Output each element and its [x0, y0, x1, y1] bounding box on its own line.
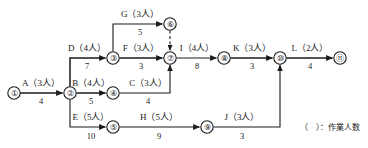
activity-label-B: B（4人） — [72, 78, 110, 88]
node-2-label: ② — [67, 89, 74, 98]
duration-label-H: 9 — [157, 131, 161, 141]
duration-label-F: 3 — [139, 61, 143, 71]
node-6: ⑥ — [164, 18, 176, 30]
node-9: ⑨ — [201, 121, 213, 133]
node-3-label: ③ — [110, 54, 117, 63]
duration-label-C: 4 — [146, 96, 151, 106]
activity-label-K: K（3人） — [233, 43, 271, 53]
legend-note: （ ）：作業人数 — [300, 122, 360, 132]
node-6-label: ⑥ — [167, 20, 174, 29]
activity-label-F: F（3人） — [123, 43, 160, 53]
activity-label-E: E（5人） — [73, 112, 110, 122]
activity-label-C: C（3人） — [129, 78, 167, 88]
activity-label-H: H（5人） — [140, 112, 178, 122]
activity-label-I: I（4人） — [180, 43, 215, 53]
activity-label-A: A（3人） — [22, 78, 60, 88]
node-4: ④ — [107, 87, 119, 99]
duration-label-D: 7 — [85, 61, 89, 71]
duration-label-L: 4 — [308, 61, 313, 71]
activity-label-L: L（2人） — [292, 43, 329, 53]
node-2: ② — [64, 87, 76, 99]
node-5: ⑤ — [107, 121, 119, 133]
node-7: ⑦ — [164, 52, 176, 64]
node-9-label: ⑨ — [204, 123, 211, 132]
node-4-label: ④ — [110, 89, 117, 98]
node-3: ③ — [107, 52, 119, 64]
network-diagram-canvas: ① ② ③ ④ ⑤ ⑥ ⑦ ⑧ — [0, 0, 368, 148]
node-11-label: ⑪ — [336, 54, 344, 63]
duration-label-E: 10 — [87, 131, 96, 141]
duration-label-B: 5 — [89, 96, 93, 106]
duration-label-A: 4 — [39, 96, 44, 106]
duration-label-I: 8 — [195, 61, 199, 71]
node-8-label: ⑧ — [221, 54, 228, 63]
duration-label-K: 3 — [250, 61, 254, 71]
activity-label-G: G（3人） — [121, 9, 159, 19]
network-diagram-svg: ① ② ③ ④ ⑤ ⑥ ⑦ ⑧ — [0, 0, 368, 148]
node-11: ⑪ — [334, 52, 346, 64]
node-7-label: ⑦ — [167, 54, 174, 63]
duration-label-J: 3 — [240, 131, 244, 141]
duration-label-G: 5 — [138, 27, 142, 37]
activity-label-J: J（3人） — [224, 112, 259, 122]
node-1-label: ① — [11, 89, 18, 98]
node-5-label: ⑤ — [110, 123, 117, 132]
node-1: ① — [8, 87, 20, 99]
node-8: ⑧ — [218, 52, 230, 64]
activity-label-D: D（4人） — [68, 43, 106, 53]
node-10-label: ⑩ — [277, 54, 284, 63]
node-10: ⑩ — [274, 52, 286, 64]
